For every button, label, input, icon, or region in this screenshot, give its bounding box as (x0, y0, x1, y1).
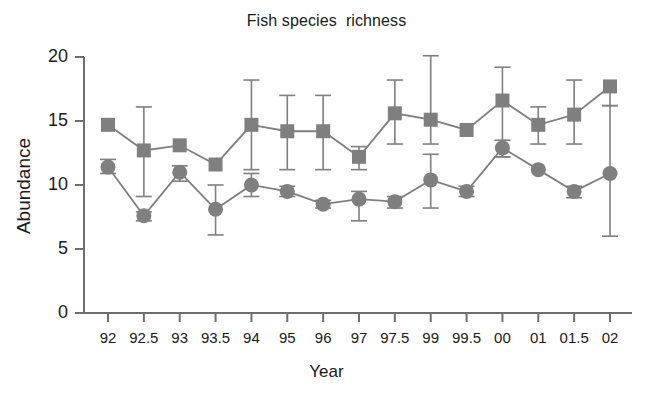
x-tick-label: 00 (494, 329, 511, 346)
data-point-square (352, 150, 366, 164)
data-point-square (603, 79, 617, 93)
data-point-square (424, 113, 438, 127)
x-tick-label: 02 (602, 329, 619, 346)
y-tick-label: 10 (26, 174, 68, 195)
chart-figure: Fish species richness Abundance Year 051… (0, 0, 653, 397)
data-point-square (531, 118, 545, 132)
data-point-square (567, 108, 581, 122)
x-tick-label: 99 (422, 329, 439, 346)
data-point-square (316, 124, 330, 138)
x-tick-label: 95 (279, 329, 296, 346)
x-tick-label: 93 (171, 329, 188, 346)
x-tick-label: 96 (315, 329, 332, 346)
data-point-circle (459, 184, 474, 199)
data-point-square (101, 118, 115, 132)
data-point-square (209, 158, 223, 172)
y-tick-label: 5 (26, 238, 68, 259)
data-point-circle (567, 184, 582, 199)
data-point-circle (280, 184, 295, 199)
data-point-circle (495, 140, 510, 155)
x-tick-label: 01 (530, 329, 547, 346)
x-tick-label: 99.5 (452, 329, 481, 346)
data-point-square (388, 106, 402, 120)
data-point-circle (136, 208, 151, 223)
x-tick-label: 01.5 (560, 329, 589, 346)
data-point-square (137, 143, 151, 157)
y-tick-label: 20 (26, 46, 68, 67)
data-point-circle (101, 160, 116, 175)
data-point-circle (387, 194, 402, 209)
data-point-circle (423, 172, 438, 187)
data-point-square (495, 94, 509, 108)
data-point-square (460, 123, 474, 137)
x-tick-label: 97.5 (380, 329, 409, 346)
x-tick-label: 92 (100, 329, 117, 346)
data-point-circle (531, 162, 546, 177)
y-tick-label: 0 (26, 302, 68, 323)
data-point-circle (352, 192, 367, 207)
data-point-square (280, 124, 294, 138)
data-point-circle (208, 202, 223, 217)
x-tick-label: 97 (351, 329, 368, 346)
data-point-circle (316, 197, 331, 212)
data-point-square (244, 118, 258, 132)
data-point-circle (603, 166, 618, 181)
x-tick-label: 92.5 (129, 329, 158, 346)
x-tick-label: 93.5 (201, 329, 230, 346)
data-point-square (173, 138, 187, 152)
y-tick-label: 15 (26, 110, 68, 131)
data-point-circle (172, 165, 187, 180)
x-tick-label: 94 (243, 329, 260, 346)
data-point-circle (244, 178, 259, 193)
